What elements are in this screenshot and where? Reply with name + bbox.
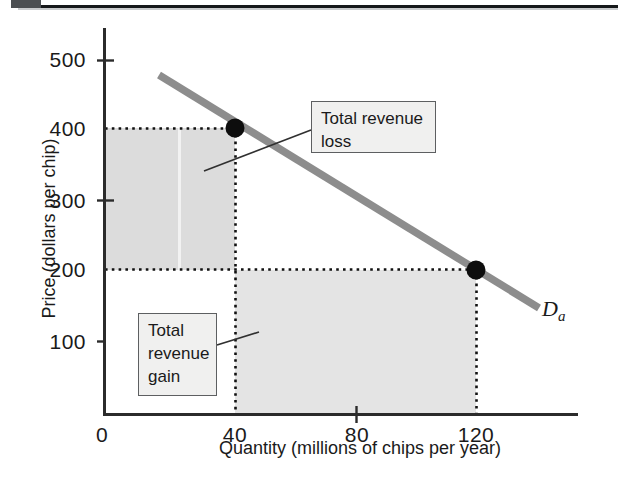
callout-loss-line-1: Total revenue [321, 108, 427, 131]
demand-curve-label: Da [542, 296, 565, 325]
scan-streak [178, 128, 181, 270]
data-point-marker-a [226, 119, 245, 138]
y-tick-label-500: 500 [24, 48, 86, 72]
demand-curve-label-base: D [542, 296, 558, 321]
x-axis-title: Quantity (millions of chips per year) [195, 438, 525, 459]
callout-total-revenue-gain: Total revenue gain [138, 313, 217, 396]
callout-gain-line-1: Total [148, 320, 208, 343]
chart-canvas [0, 0, 621, 478]
demand-curve-chart: 500 400 300 200 100 0 40 80 120 Price (d… [0, 0, 621, 478]
shaded-region-total-revenue-loss [105, 128, 235, 270]
callout-loss-line-2: loss [321, 131, 427, 154]
y-axis-title: Price (dollars per chip) [39, 104, 60, 354]
callout-gain-line-3: gain [148, 366, 208, 389]
shaded-region-total-revenue-gain [235, 270, 476, 415]
data-point-marker-b [467, 261, 486, 280]
x-tick-label-0: 0 [72, 423, 132, 447]
callout-gain-line-2: revenue [148, 343, 208, 366]
callout-total-revenue-loss: Total revenue loss [311, 101, 436, 153]
demand-curve-label-subscript: a [558, 308, 566, 324]
